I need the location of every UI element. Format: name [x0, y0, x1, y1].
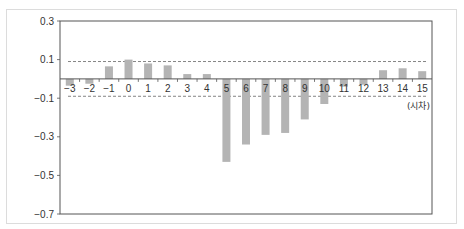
x-tick-label: 5	[224, 83, 230, 94]
bar	[399, 68, 407, 79]
x-tick-label: −1	[103, 83, 115, 94]
x-tick-label: 4	[204, 83, 210, 94]
bar-chart: −3−2−101234567891011121314150.30.1−0.1−0…	[0, 0, 464, 229]
bar	[125, 60, 133, 79]
y-tick-label: −0.1	[34, 93, 54, 104]
y-tick-label: 0.3	[40, 16, 54, 27]
x-tick-label: 7	[263, 83, 269, 94]
y-tick-label: −0.7	[34, 209, 54, 220]
x-tick-label: 14	[397, 83, 409, 94]
bar	[379, 70, 387, 79]
x-tick-label: 15	[417, 83, 429, 94]
x-tick-label: 0	[126, 83, 132, 94]
bar	[144, 63, 152, 78]
x-tick-label: 2	[165, 83, 171, 94]
y-tick-label: −0.5	[34, 170, 54, 181]
bar	[418, 71, 426, 79]
x-axis-label: (시차)	[407, 100, 430, 111]
x-tick-label: 11	[339, 83, 350, 94]
x-tick-label: 6	[243, 83, 249, 94]
x-tick-label: 10	[319, 83, 331, 94]
x-tick-label: −2	[84, 83, 96, 94]
x-tick-label: −3	[64, 83, 76, 94]
y-tick-label: 0.1	[40, 54, 54, 65]
y-tick-label: −0.3	[34, 131, 54, 142]
x-tick-label: 1	[145, 83, 151, 94]
bar	[105, 66, 113, 79]
x-tick-label: 8	[282, 83, 288, 94]
bar	[183, 74, 191, 79]
x-tick-label: 9	[302, 83, 308, 94]
bar	[164, 65, 172, 79]
x-tick-label: 13	[377, 83, 389, 94]
x-tick-label: 12	[358, 83, 370, 94]
x-tick-label: 3	[184, 83, 190, 94]
bar	[203, 74, 211, 79]
